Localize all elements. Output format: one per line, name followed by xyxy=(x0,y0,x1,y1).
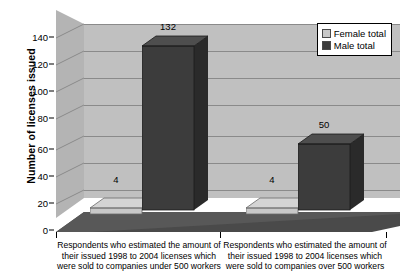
bar-male-total-group-2 xyxy=(298,130,378,218)
y-tick-label-20: 20 xyxy=(37,198,48,209)
y-tick-mark-100 xyxy=(49,91,54,92)
category-label-2-line-1: Respondents who estimated the amount of xyxy=(223,240,387,251)
y-tick-mark-20 xyxy=(49,203,54,204)
y-tick-label-60: 60 xyxy=(37,144,48,155)
y-tick-mark-60 xyxy=(49,149,54,150)
bar-value-label-female-1: 4 xyxy=(113,174,118,185)
y-tick-label-40: 40 xyxy=(37,171,48,182)
category-label-1: Respondents who estimated the amount of … xyxy=(57,240,221,272)
y-axis-ticks: 140 120 100 80 60 40 20 0 xyxy=(24,0,54,278)
legend-swatch-female-total xyxy=(322,29,331,38)
y-tick-label-80: 80 xyxy=(37,113,48,124)
category-label-2-line-2: their issued 1998 to 2004 licenses which xyxy=(223,251,387,262)
y-tick-mark-40 xyxy=(49,176,54,177)
legend: Female total Male total xyxy=(317,23,392,56)
category-label-1-line-2: their issued 1998 to 2004 licenses which xyxy=(57,251,221,262)
y-tick-mark-0 xyxy=(49,230,54,231)
x-tick-middle xyxy=(220,232,221,238)
bar-chart: Number of licenses issued 140 120 100 80… xyxy=(0,0,407,278)
legend-label-male-total: Male total xyxy=(334,40,375,51)
y-tick-mark-120 xyxy=(49,64,54,65)
plot-area: 4 132 4 50 xyxy=(56,10,400,232)
category-label-2: Respondents who estimated the amount of … xyxy=(223,240,387,272)
bar-male-total-group-1 xyxy=(142,32,222,218)
category-label-1-line-3: were sold to companies under 500 workers xyxy=(57,261,221,272)
y-tick-label-140: 140 xyxy=(32,32,48,43)
category-label-1-line-1: Respondents who estimated the amount of xyxy=(57,240,221,251)
y-tick-label-120: 120 xyxy=(32,59,48,70)
bar-value-label-male-2: 50 xyxy=(319,119,330,130)
y-tick-label-100: 100 xyxy=(32,86,48,97)
x-axis-categories: Respondents who estimated the amount of … xyxy=(56,232,400,278)
x-tick-left xyxy=(56,232,57,238)
legend-swatch-male-total xyxy=(322,41,331,50)
y-tick-mark-140 xyxy=(49,37,54,38)
gridline-80 xyxy=(84,105,400,106)
legend-item-male-total[interactable]: Male total xyxy=(322,40,386,51)
x-tick-right xyxy=(386,232,387,238)
category-label-2-line-3: were sold to companies over 500 workers xyxy=(223,261,387,272)
y-tick-mark-80 xyxy=(49,118,54,119)
bar-value-label-female-2: 4 xyxy=(269,174,274,185)
legend-item-female-total[interactable]: Female total xyxy=(322,28,386,39)
bar-value-label-male-1: 132 xyxy=(160,21,176,32)
y-tick-label-0: 0 xyxy=(43,225,48,236)
gridline-100 xyxy=(84,78,400,79)
legend-label-female-total: Female total xyxy=(334,28,386,39)
